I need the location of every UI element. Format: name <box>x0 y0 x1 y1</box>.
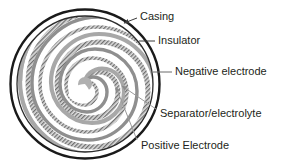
label-insulator: Insulator <box>158 34 201 46</box>
label-positive-electrode: Positive Electrode <box>141 139 229 151</box>
label-negative-electrode: Negative electrode <box>175 65 267 77</box>
battery-cross-section-diagram: Casing Insulator Negative electrode Sepa… <box>0 0 281 164</box>
label-separator-electrolyte: Separator/electrolyte <box>160 107 262 119</box>
battery-figure-svg: Casing Insulator Negative electrode Sepa… <box>0 0 281 164</box>
label-casing: Casing <box>140 10 174 22</box>
